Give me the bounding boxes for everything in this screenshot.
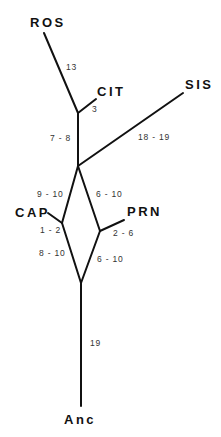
edge-cap: [48, 213, 62, 223]
taxon-ros: ROS: [30, 15, 66, 30]
branch-length-ros: 13: [66, 62, 77, 72]
taxon-prn: PRN: [127, 204, 162, 219]
branch-length-internal-upper: 7 - 8: [50, 133, 71, 143]
taxon-anc: Anc: [64, 412, 96, 427]
branch-length-cit: 3: [92, 104, 98, 114]
taxon-sis: SIS: [185, 77, 213, 92]
edge-ros: [44, 33, 78, 113]
branch-length-sis: 18 - 19: [138, 132, 170, 142]
taxon-cap: CAP: [15, 205, 50, 220]
branch-length-root: 19: [90, 338, 101, 348]
branch-length-cap-upper: 9 - 10: [37, 189, 64, 199]
branch-length-cap: 1 - 2: [40, 225, 61, 235]
edge-cap-upper: [62, 166, 78, 223]
branch-length-cap-lower: 8 - 10: [39, 248, 66, 258]
branch-length-prn: 2 - 6: [113, 228, 134, 238]
branch-length-prn-upper: 6 - 10: [96, 189, 123, 199]
phylogenetic-tree: ROS CIT SIS CAP PRN Anc 13 3 7 - 8 18 - …: [0, 0, 221, 437]
taxon-cit: CIT: [97, 84, 125, 99]
branch-length-prn-lower: 6 - 10: [97, 254, 124, 264]
